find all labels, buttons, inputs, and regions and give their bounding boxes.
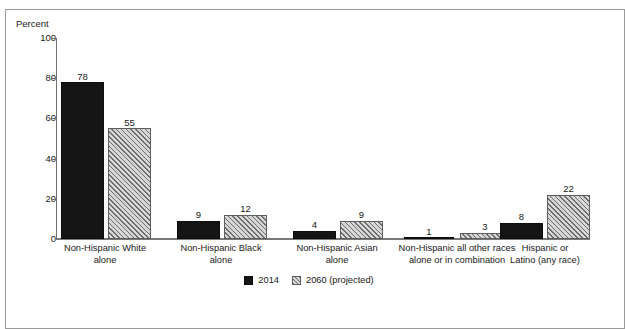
legend-label: 2014 <box>258 276 279 285</box>
bar-2014: 1 <box>404 237 454 239</box>
legend-swatch-2014 <box>244 276 253 285</box>
x-category-label: Non-Hispanic Whitealone <box>40 243 170 266</box>
bar-value-label: 22 <box>563 184 574 194</box>
bar-group: 13 <box>404 38 513 239</box>
legend-item: 2014 <box>244 276 279 285</box>
legend-item: 2060 (projected) <box>292 276 374 285</box>
bar-2014: 78 <box>61 82 104 239</box>
bar-group: 912 <box>177 38 266 239</box>
bar-group: 49 <box>293 38 382 239</box>
x-category-label-line: Non-Hispanic Black <box>156 243 286 255</box>
bar-value-label: 3 <box>482 222 487 232</box>
bar-2014: 9 <box>177 221 220 239</box>
bar-value-label: 55 <box>124 118 135 128</box>
bar-value-label: 8 <box>519 212 524 222</box>
bar-2014: 8 <box>500 223 543 239</box>
y-axis-title: Percent <box>16 18 49 29</box>
x-category-label-line: Non-Hispanic White <box>40 243 170 255</box>
y-tick-mark <box>51 159 56 160</box>
bar-value-label: 1 <box>426 227 431 237</box>
x-category-label: Non-Hispanic Blackalone <box>156 243 286 266</box>
bar-value-label: 9 <box>196 210 201 220</box>
bar-value-label: 9 <box>359 210 364 220</box>
bar-2060: 9 <box>340 221 383 239</box>
legend-label: 2060 (projected) <box>306 276 374 285</box>
x-category-label-line: Hispanic or <box>480 243 610 255</box>
x-category-label-line: Latino (any race) <box>480 255 610 267</box>
bar-2060: 12 <box>224 215 267 239</box>
chart-legend: 20142060 (projected) <box>0 276 618 285</box>
y-tick-mark <box>51 199 56 200</box>
x-category-label: Hispanic orLatino (any race) <box>480 243 610 266</box>
legend-swatch-2060 <box>292 276 301 285</box>
y-tick-mark <box>51 118 56 119</box>
y-tick-mark <box>51 78 56 79</box>
y-tick-mark <box>51 38 56 39</box>
bar-value-label: 78 <box>77 72 88 82</box>
bar-value-label: 4 <box>312 220 317 230</box>
bar-2060: 55 <box>108 128 151 239</box>
bar-group: 7855 <box>61 38 150 239</box>
x-category-label-line: alone <box>156 255 286 267</box>
bar-2060: 22 <box>547 195 590 239</box>
y-axis-line <box>56 38 57 239</box>
bar-2014: 4 <box>293 231 336 239</box>
x-category-label-line: alone <box>40 255 170 267</box>
bar-group: 822 <box>500 38 589 239</box>
bar-value-label: 12 <box>240 204 251 214</box>
